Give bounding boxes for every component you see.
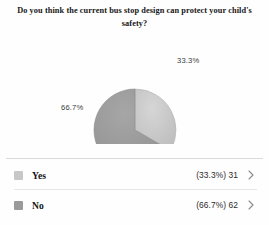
chevron-right-icon[interactable] xyxy=(247,199,255,211)
legend-swatch-yes xyxy=(14,171,23,180)
legend-divider-top xyxy=(6,158,263,159)
legend-label-yes: Yes xyxy=(32,170,46,181)
survey-result-panel: Do you think the current bus stop design… xyxy=(0,0,269,225)
legend-label-no: No xyxy=(32,200,44,211)
page-title: Do you think the current bus stop design… xyxy=(14,4,255,30)
pie-chart-svg xyxy=(0,32,269,144)
pie-chart: 33.3% 66.7% xyxy=(0,32,269,144)
legend-value-no: (66.7%) 62 xyxy=(196,200,238,210)
legend-swatch-no xyxy=(14,201,23,210)
chevron-right-icon[interactable] xyxy=(247,169,255,181)
legend-value-yes: (33.3%) 31 xyxy=(196,170,238,180)
legend-row-yes[interactable]: Yes (33.3%) 31 xyxy=(0,160,269,190)
legend-row-no[interactable]: No (66.7%) 62 xyxy=(0,190,269,220)
pie-label-no: 66.7% xyxy=(61,103,83,112)
pie-label-yes: 33.3% xyxy=(177,56,199,65)
